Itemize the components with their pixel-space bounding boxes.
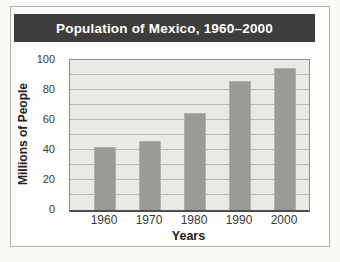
x-tick-label-1960: 1960 bbox=[91, 213, 118, 227]
y-tick-label-60: 60 bbox=[43, 113, 55, 125]
y-tick-label-80: 80 bbox=[43, 83, 55, 95]
y-axis-ticks: 020406080100 bbox=[11, 59, 63, 209]
plot-area bbox=[69, 59, 310, 212]
y-tick-label-40: 40 bbox=[43, 143, 55, 155]
x-tick-label-2000: 2000 bbox=[271, 213, 298, 227]
bar-1980 bbox=[184, 113, 206, 211]
chart-card: Population of Mexico, 1960–2000 Millions… bbox=[10, 6, 330, 247]
bar-1970 bbox=[139, 141, 161, 210]
bar-1960 bbox=[94, 147, 116, 210]
x-tick-label-1980: 1980 bbox=[181, 213, 208, 227]
x-tick-label-1990: 1990 bbox=[226, 213, 253, 227]
y-tick-label-0: 0 bbox=[49, 203, 55, 215]
x-tick-label-1970: 1970 bbox=[136, 213, 163, 227]
bar-1990 bbox=[229, 81, 251, 210]
page: Population of Mexico, 1960–2000 Millions… bbox=[0, 0, 340, 262]
x-axis-ticks: 19601970198019902000 bbox=[69, 213, 308, 228]
chart-title: Population of Mexico, 1960–2000 bbox=[56, 21, 273, 36]
x-axis-title: Years bbox=[69, 229, 308, 243]
chart-title-bar: Population of Mexico, 1960–2000 bbox=[14, 14, 315, 42]
bar-2000 bbox=[274, 68, 296, 211]
y-tick-label-100: 100 bbox=[37, 53, 55, 65]
y-tick-label-20: 20 bbox=[43, 173, 55, 185]
